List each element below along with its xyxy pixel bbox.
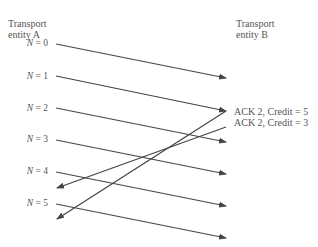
segment-arrow-4 (56, 172, 226, 206)
segment-arrow-1 (56, 76, 226, 111)
ack-arrow-credit-3 (57, 127, 226, 188)
segment-arrow-2 (56, 108, 226, 142)
segment-arrow-0 (56, 44, 226, 78)
sequence-arrows (0, 0, 318, 247)
segment-arrow-3 (56, 140, 226, 174)
ack-arrow-credit-5 (57, 111, 226, 219)
segment-arrow-5 (56, 204, 226, 238)
